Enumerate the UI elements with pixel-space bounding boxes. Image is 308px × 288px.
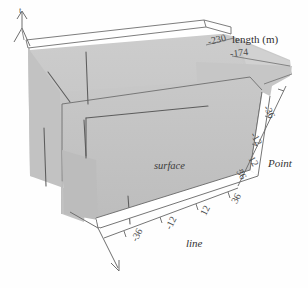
- point-axis-label: Point: [268, 158, 292, 169]
- length-tick-1: -174: [229, 47, 248, 59]
- lower-left-flap: [62, 150, 98, 220]
- surface-annotation: surface: [154, 161, 185, 172]
- line-axis-label: line: [186, 238, 203, 249]
- length-axis-title: length (m): [232, 34, 278, 45]
- vertical-axis-arrow: [14, 11, 30, 46]
- figure-canvas: t length (m) -230 -174 Point -36 -12 12 …: [0, 0, 308, 288]
- vertical-axis-label: t: [19, 6, 22, 15]
